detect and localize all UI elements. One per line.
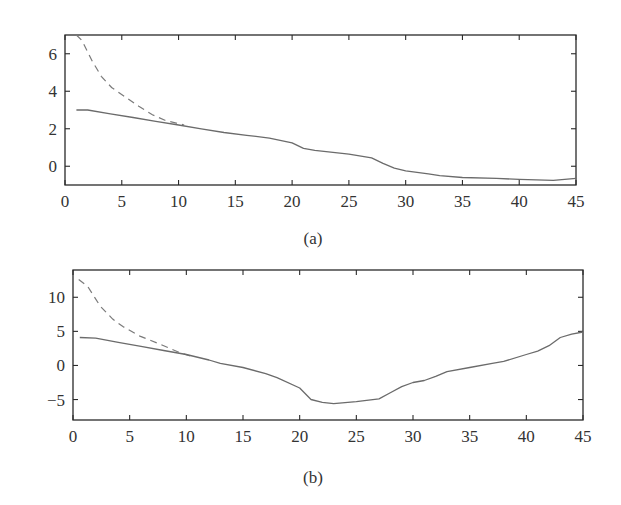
y-axis-a: 0246 (49, 45, 577, 177)
dashed-series-a (76, 35, 184, 125)
x-tick-label: 5 (125, 427, 134, 446)
chart-panel-a: 051015202530354045 0246 (a) (49, 35, 585, 248)
y-tick-label: 2 (49, 120, 58, 139)
x-tick-label: 40 (511, 192, 528, 211)
x-tick-label: 15 (227, 192, 244, 211)
plot-area-b (73, 270, 583, 420)
x-tick-label: 45 (568, 192, 585, 211)
y-tick-label: 4 (49, 82, 58, 101)
y-tick-label: 0 (57, 356, 66, 375)
x-tick-label: 25 (340, 192, 357, 211)
x-tick-label: 0 (61, 192, 70, 211)
y-axis-b: −50510 (47, 288, 583, 409)
solid-series-a (76, 110, 576, 180)
y-tick-label: −5 (47, 391, 65, 410)
x-tick-label: 15 (235, 427, 252, 446)
x-tick-label: 30 (405, 427, 422, 446)
x-tick-label: 10 (170, 192, 187, 211)
y-tick-label: 10 (48, 288, 65, 307)
y-tick-label: 5 (57, 322, 66, 341)
x-tick-label: 40 (518, 427, 535, 446)
x-tick-label: 5 (118, 192, 127, 211)
y-tick-label: 0 (49, 157, 58, 176)
x-tick-label: 20 (291, 427, 308, 446)
chart-panel-b: 051015202530354045 −50510 (b) (47, 270, 592, 487)
caption-a: (a) (304, 229, 323, 248)
x-tick-label: 0 (69, 427, 78, 446)
figure: 051015202530354045 0246 (a) 051015202530… (0, 0, 621, 505)
plot-area-a (65, 35, 576, 185)
x-tick-label: 45 (575, 427, 592, 446)
x-tick-label: 30 (397, 192, 414, 211)
y-tick-label: 6 (49, 45, 58, 64)
x-tick-label: 25 (348, 427, 365, 446)
x-tick-label: 10 (178, 427, 195, 446)
x-tick-label: 35 (454, 192, 471, 211)
x-tick-label: 20 (284, 192, 301, 211)
caption-b: (b) (303, 468, 323, 487)
x-tick-label: 35 (461, 427, 478, 446)
